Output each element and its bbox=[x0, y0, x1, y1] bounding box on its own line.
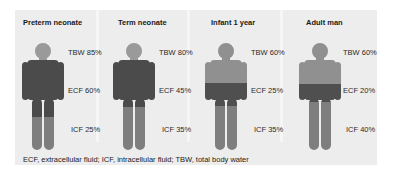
panel-divider bbox=[187, 10, 190, 142]
ecf-label: ECF 45% bbox=[159, 86, 191, 95]
icf-label: ICF 25% bbox=[71, 125, 100, 134]
person-figure-adult-man bbox=[299, 43, 341, 150]
icf-label: ICF 35% bbox=[254, 125, 283, 134]
tbw-label: TBW 60% bbox=[251, 48, 285, 57]
ecf-label: ECF 60% bbox=[68, 86, 100, 95]
tbw-label: TBW 85% bbox=[68, 48, 102, 57]
panel-title-adult-man: Adult man bbox=[306, 18, 343, 27]
person-figure-infant-1-year bbox=[205, 43, 247, 150]
person-figure-term-neonate bbox=[113, 43, 155, 150]
figure-caption: ECF, extracellular fluid; ICF, intracell… bbox=[23, 155, 249, 164]
panel-divider bbox=[96, 10, 99, 142]
icf-label: ICF 35% bbox=[162, 125, 191, 134]
panel-title-term-neonate: Term neonate bbox=[118, 18, 167, 27]
panel-divider bbox=[280, 10, 283, 142]
panel-title-infant-1-year: Infant 1 year bbox=[211, 18, 255, 27]
person-figure-preterm-neonate bbox=[22, 43, 64, 150]
ecf-label: ECF 25% bbox=[251, 86, 283, 95]
icf-label: ICF 40% bbox=[346, 125, 375, 134]
tbw-label: TBW 80% bbox=[159, 48, 193, 57]
panel-title-preterm-neonate: Preterm neonate bbox=[23, 18, 82, 27]
ecf-label: ECF 20% bbox=[343, 86, 375, 95]
tbw-label: TBW 60% bbox=[343, 48, 377, 57]
